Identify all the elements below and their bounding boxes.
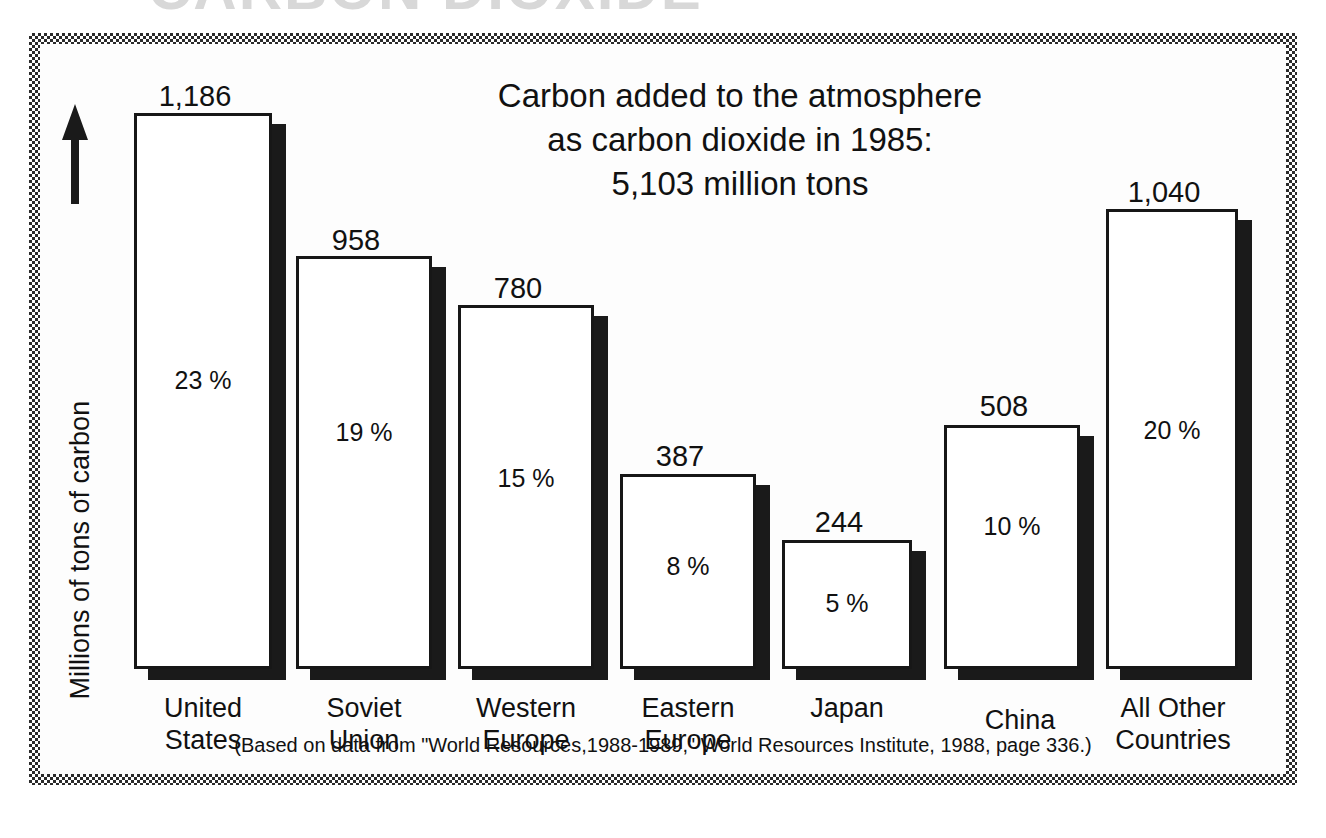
bar-value-label: 1,186: [126, 80, 264, 113]
bar-body[interactable]: [944, 425, 1080, 669]
bar-percent-label: 23 %: [134, 366, 272, 395]
bar-value-label: 387: [612, 440, 748, 473]
bar-percent-label: 10 %: [944, 512, 1080, 541]
bar-value-label: 958: [288, 224, 424, 257]
bar-value-label: 508: [936, 390, 1072, 423]
chart-canvas: Millions of tons of carbon Carbon added …: [40, 44, 1286, 774]
bar-value-label: 1,040: [1098, 176, 1230, 209]
bar-value-label: 780: [450, 272, 586, 305]
bar-percent-label: 15 %: [458, 464, 594, 493]
bar-category-line-1: Western: [436, 692, 616, 724]
cropped-headline-text: CARBON DIOXIDE: [148, 0, 703, 23]
bar-percent-label: 8 %: [620, 552, 756, 581]
chart-frame-border: Millions of tons of carbon Carbon added …: [29, 33, 1297, 785]
bar-body[interactable]: [296, 256, 432, 669]
bar-category-label: Japan: [757, 692, 937, 724]
bar-group[interactable]: 508 10 % China: [936, 44, 1106, 684]
bar-group[interactable]: 958 19 % Soviet Union: [288, 44, 458, 684]
bar-value-label: 244: [774, 506, 904, 539]
bar-category-line-1: Japan: [757, 692, 937, 724]
bar-percent-label: 5 %: [782, 589, 912, 618]
bar-group[interactable]: 387 8 % Eastern Europe: [612, 44, 782, 684]
bar-percent-label: 20 %: [1106, 416, 1238, 445]
bar-group[interactable]: 1,186 23 % United States: [126, 44, 296, 684]
bar-group[interactable]: 780 15 % Western Europe: [450, 44, 620, 684]
bar-category-line-1: Soviet: [274, 692, 454, 724]
bar-category-line-1: Eastern: [598, 692, 778, 724]
bar-category-line-1: All Other: [1078, 692, 1268, 724]
bar-percent-label: 19 %: [296, 418, 432, 447]
plot-area: 1,186 23 % United States 958 19 % Soviet…: [40, 44, 1286, 774]
bar-group[interactable]: 1,040 20 % All Other Countries: [1098, 44, 1268, 684]
bar-category-line-1: United: [112, 692, 294, 724]
source-footnote: (Based on data from "World Resources,198…: [40, 734, 1286, 757]
bar-group[interactable]: 244 5 % Japan: [774, 44, 944, 684]
cropped-headline-ghost: CARBON DIOXIDE: [0, 0, 1326, 26]
